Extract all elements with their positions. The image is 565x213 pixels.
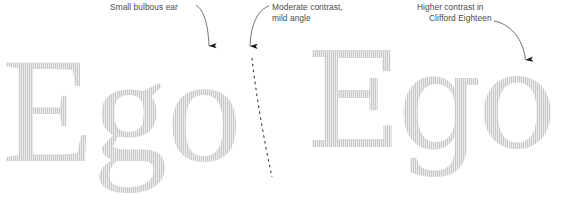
annotation-contrast-line2: mild angle [272,13,343,24]
leader-arrow-contrast [250,6,269,46]
specimen-right-ego: Ego [305,35,552,168]
annotation-contrast-line1: Moderate contrast, [272,2,343,12]
annotation-clifford-line2: Clifford Eighteen [417,13,492,24]
figure-canvas: Ego Ego Small bulbous ear Moderate [0,0,565,213]
annotation-moderate-contrast: Moderate contrast, mild angle [272,2,343,24]
annotation-small-bulbous-ear: Small bulbous ear [110,2,178,13]
annotation-higher-contrast: Higher contrast in Clifford Eighteen [417,2,492,24]
dashed-stress-axis [252,58,272,177]
specimen-left-ego: Ego [2,35,241,185]
annotation-clifford-line1: Higher contrast in [417,2,484,12]
annotation-ear-line1: Small bulbous ear [110,2,178,12]
